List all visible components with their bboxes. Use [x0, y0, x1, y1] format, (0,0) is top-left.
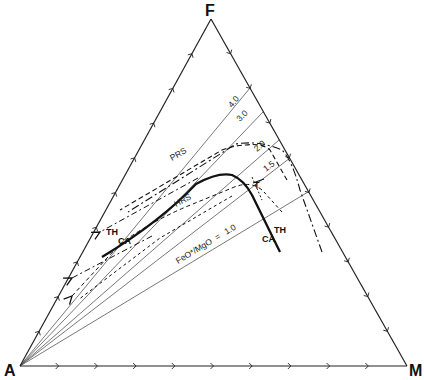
prs-arrow-long [72, 236, 152, 278]
afm-ternary-diagram: F A M 4.0 3.0 2.0 1.5 FeO*/MgO=1.0 T PRS… [0, 0, 424, 380]
prs-label: PRS [168, 145, 188, 163]
ratio-label-2-0: 2.0 [252, 138, 268, 153]
ratio-label-1-5: 1.5 [261, 158, 277, 173]
ca-label-left: CA [118, 236, 131, 246]
vertex-label-m: M [409, 362, 422, 379]
prs-trend-line [128, 143, 322, 252]
svg-text:T: T [254, 180, 260, 190]
ratio-lines [20, 88, 308, 366]
th-label-left: TH [106, 227, 118, 237]
ratio-line-3-0 [20, 112, 263, 366]
ratio-line-2-0 [20, 140, 279, 366]
vertex-label-f: F [205, 2, 215, 19]
hrs-trend-line-2 [78, 192, 282, 300]
ratio-label-3-0: 3.0 [234, 108, 250, 124]
edge-ticks [35, 50, 389, 369]
hrs-label: HRS [172, 191, 193, 208]
svg-text:FeO*/MgO=1.0: FeO*/MgO=1.0 [174, 222, 238, 266]
ratio-line-4-0 [20, 88, 250, 366]
vertex-label-a: A [4, 362, 16, 379]
ratio-axis-label: FeO*/MgO=1.0 [174, 222, 238, 266]
triangle-outline [20, 19, 407, 366]
ratio-label-4-0: 4.0 [226, 94, 241, 110]
ratio-line-1-0 [20, 192, 308, 366]
th-label-right: TH [274, 225, 286, 235]
ca-label-right: CA [262, 234, 275, 244]
